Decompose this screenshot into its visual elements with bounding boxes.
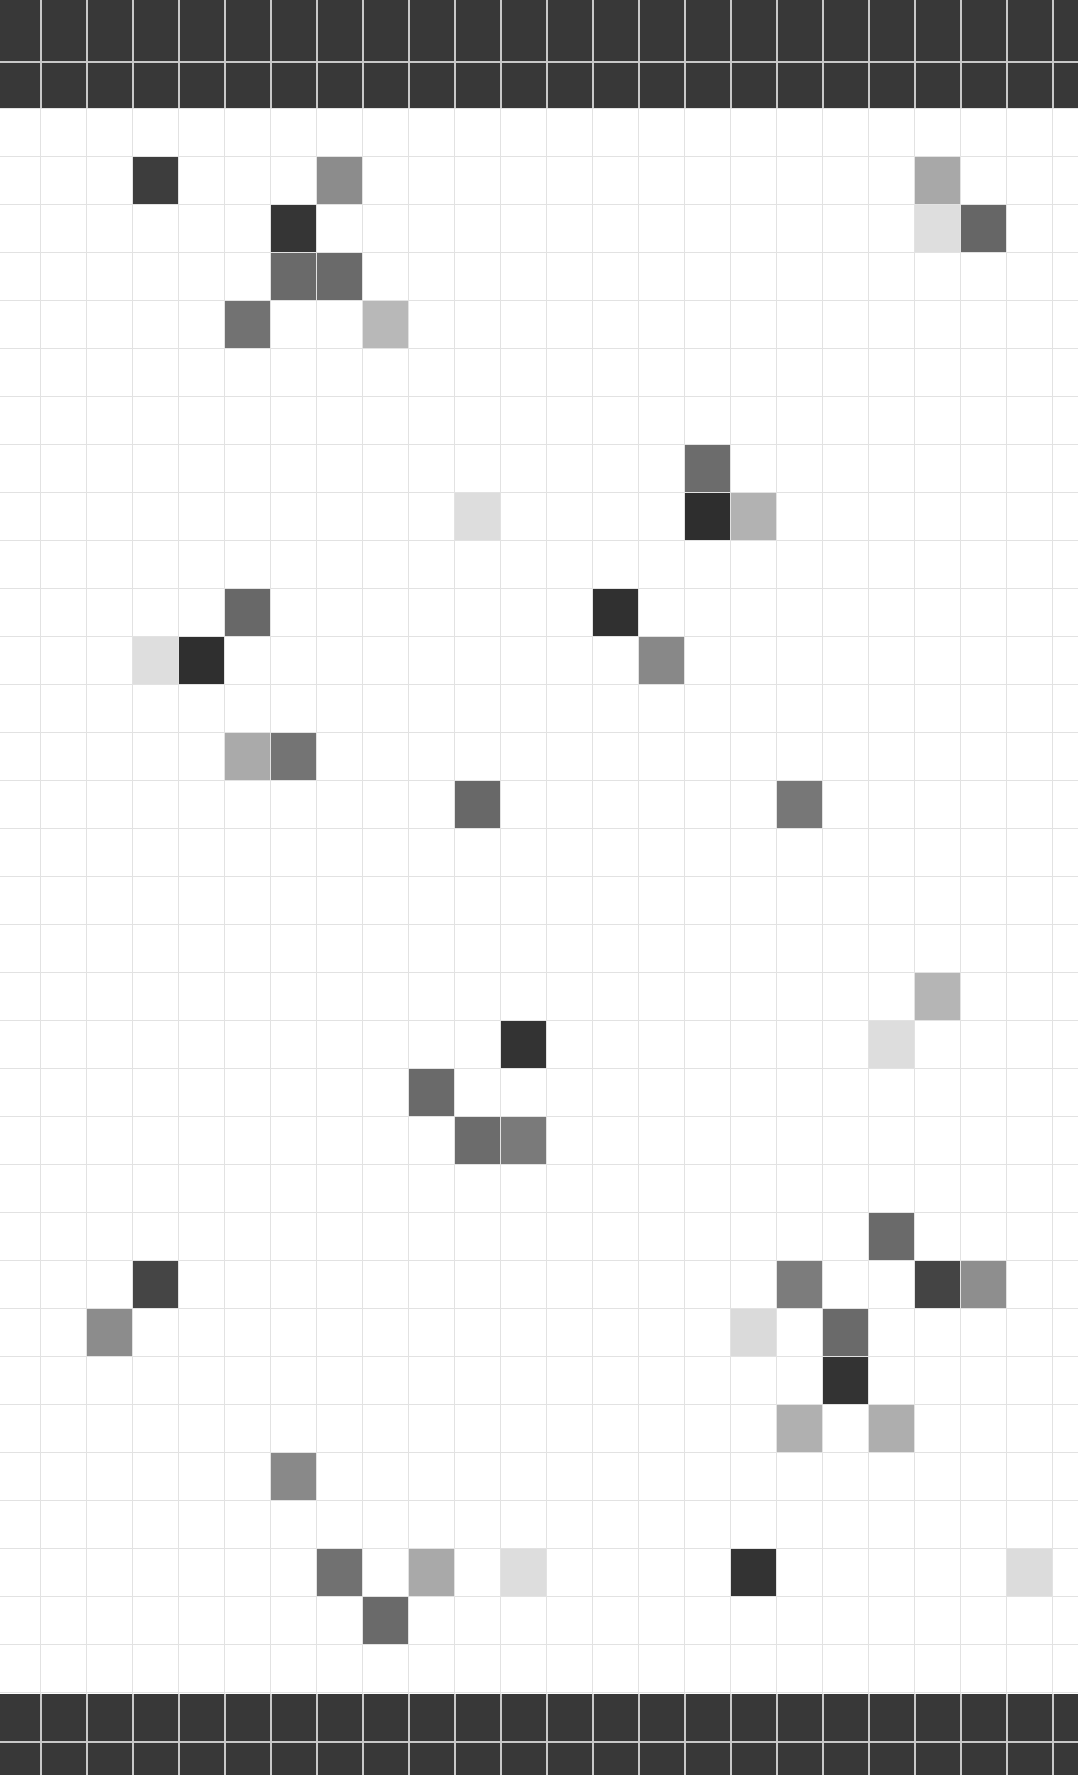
grid-line-vertical	[86, 1694, 88, 1775]
filled-cell[interactable]	[363, 301, 408, 348]
grid-line-vertical	[454, 1694, 456, 1775]
grid-line-vertical	[776, 108, 777, 1694]
grid-line-vertical	[960, 108, 961, 1694]
grid-line-vertical	[868, 0, 870, 108]
grid-line-horizontal	[0, 1356, 1078, 1357]
band-line	[0, 1741, 1078, 1743]
filled-cell[interactable]	[87, 1309, 132, 1356]
grid-line-vertical	[224, 1694, 226, 1775]
filled-cell[interactable]	[409, 1549, 454, 1596]
filled-cell[interactable]	[915, 157, 960, 204]
grid-line-vertical	[1052, 0, 1054, 108]
filled-cell[interactable]	[225, 733, 270, 780]
filled-cell[interactable]	[731, 1309, 776, 1356]
filled-cell[interactable]	[271, 253, 316, 300]
filled-cell[interactable]	[961, 1261, 1006, 1308]
grid-line-horizontal	[0, 780, 1078, 781]
grid-line-vertical	[914, 1694, 916, 1775]
filled-cell[interactable]	[133, 637, 178, 684]
filled-cell[interactable]	[501, 1549, 546, 1596]
filled-cell[interactable]	[869, 1405, 914, 1452]
filled-cell[interactable]	[455, 1117, 500, 1164]
grid-line-vertical	[316, 1694, 318, 1775]
filled-cell[interactable]	[685, 445, 730, 492]
grid-line-vertical	[1006, 1694, 1008, 1775]
grid-line-vertical	[868, 1694, 870, 1775]
filled-cell[interactable]	[133, 157, 178, 204]
grid-line-vertical	[132, 1694, 134, 1775]
grid-line-horizontal	[0, 1692, 1078, 1693]
filled-cell[interactable]	[455, 781, 500, 828]
grid-line-horizontal	[0, 1404, 1078, 1405]
grid-line-vertical	[408, 108, 409, 1694]
grid-line-vertical	[500, 108, 501, 1694]
grid-line-vertical	[40, 0, 42, 108]
filled-cell[interactable]	[777, 1405, 822, 1452]
filled-cell[interactable]	[363, 1597, 408, 1644]
filled-cell[interactable]	[271, 733, 316, 780]
filled-cell[interactable]	[501, 1117, 546, 1164]
filled-cell[interactable]	[685, 493, 730, 540]
grid-line-horizontal	[0, 1596, 1078, 1597]
filled-cell[interactable]	[455, 493, 500, 540]
grid-line-vertical	[132, 0, 134, 108]
filled-cell[interactable]	[409, 1069, 454, 1116]
filled-cell[interactable]	[915, 973, 960, 1020]
filled-cell[interactable]	[777, 1261, 822, 1308]
grid-line-vertical	[592, 1694, 594, 1775]
filled-cell[interactable]	[271, 205, 316, 252]
grid-line-horizontal	[0, 492, 1078, 493]
game-board-grid[interactable]	[0, 108, 1078, 1694]
filled-cell[interactable]	[823, 1309, 868, 1356]
filled-cell[interactable]	[593, 589, 638, 636]
grid-line-vertical	[960, 1694, 962, 1775]
filled-cell[interactable]	[731, 1549, 776, 1596]
filled-cell[interactable]	[317, 1549, 362, 1596]
filled-cell[interactable]	[915, 1261, 960, 1308]
grid-line-vertical	[730, 0, 732, 108]
filled-cell[interactable]	[823, 1357, 868, 1404]
grid-line-vertical	[822, 1694, 824, 1775]
grid-line-horizontal	[0, 588, 1078, 589]
grid-line-vertical	[684, 108, 685, 1694]
grid-line-vertical	[1006, 108, 1007, 1694]
filled-cell[interactable]	[271, 1453, 316, 1500]
filled-cell[interactable]	[915, 205, 960, 252]
filled-cell[interactable]	[317, 253, 362, 300]
grid-line-vertical	[1006, 0, 1008, 108]
filled-cell[interactable]	[225, 589, 270, 636]
grid-line-horizontal	[0, 1644, 1078, 1645]
grid-line-vertical	[178, 0, 180, 108]
filled-cell[interactable]	[1007, 1549, 1052, 1596]
grid-line-horizontal	[0, 1212, 1078, 1213]
grid-line-vertical	[362, 1694, 364, 1775]
bottom-dark-band	[0, 1694, 1078, 1775]
grid-line-vertical	[500, 1694, 502, 1775]
grid-line-vertical	[86, 108, 87, 1694]
grid-line-horizontal	[0, 1500, 1078, 1501]
top-dark-band	[0, 0, 1078, 108]
filled-cell[interactable]	[869, 1021, 914, 1068]
grid-line-vertical	[684, 0, 686, 108]
filled-cell[interactable]	[869, 1213, 914, 1260]
grid-line-vertical	[592, 0, 594, 108]
grid-line-vertical	[86, 0, 88, 108]
filled-cell[interactable]	[179, 637, 224, 684]
filled-cell[interactable]	[225, 301, 270, 348]
filled-cell[interactable]	[317, 157, 362, 204]
grid-line-horizontal	[0, 828, 1078, 829]
grid-line-vertical	[730, 108, 731, 1694]
grid-line-horizontal	[0, 300, 1078, 301]
grid-line-horizontal	[0, 540, 1078, 541]
filled-cell[interactable]	[777, 781, 822, 828]
filled-cell[interactable]	[731, 493, 776, 540]
grid-line-vertical	[270, 1694, 272, 1775]
grid-line-vertical	[684, 1694, 686, 1775]
filled-cell[interactable]	[639, 637, 684, 684]
filled-cell[interactable]	[961, 205, 1006, 252]
grid-line-vertical	[822, 0, 824, 108]
filled-cell[interactable]	[133, 1261, 178, 1308]
grid-line-horizontal	[0, 684, 1078, 685]
grid-line-vertical	[362, 0, 364, 108]
filled-cell[interactable]	[501, 1021, 546, 1068]
